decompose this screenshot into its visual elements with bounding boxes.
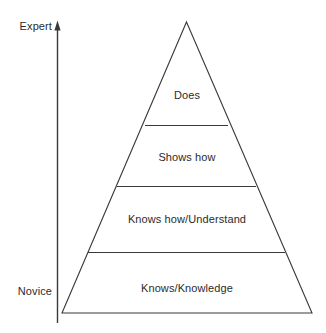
pyramid-tier-label-knows-how: Knows how/Understand bbox=[128, 213, 246, 225]
pyramid-dividers bbox=[88, 126, 285, 253]
arrow-up-icon bbox=[54, 21, 60, 31]
axis-label-novice: Novice bbox=[18, 285, 52, 297]
pyramid-tier-label-does: Does bbox=[174, 89, 200, 101]
pyramid-tier-label-knows: Knows/Knowledge bbox=[141, 282, 233, 294]
pyramid-triangle bbox=[62, 22, 312, 313]
competence-axis bbox=[54, 21, 60, 324]
axis-label-expert: Expert bbox=[20, 20, 52, 32]
pyramid-outline bbox=[62, 22, 312, 313]
millers-pyramid-figure: Expert Novice Does Shows how Knows how/U… bbox=[0, 0, 326, 333]
pyramid-tier-label-shows-how: Shows how bbox=[158, 151, 215, 163]
